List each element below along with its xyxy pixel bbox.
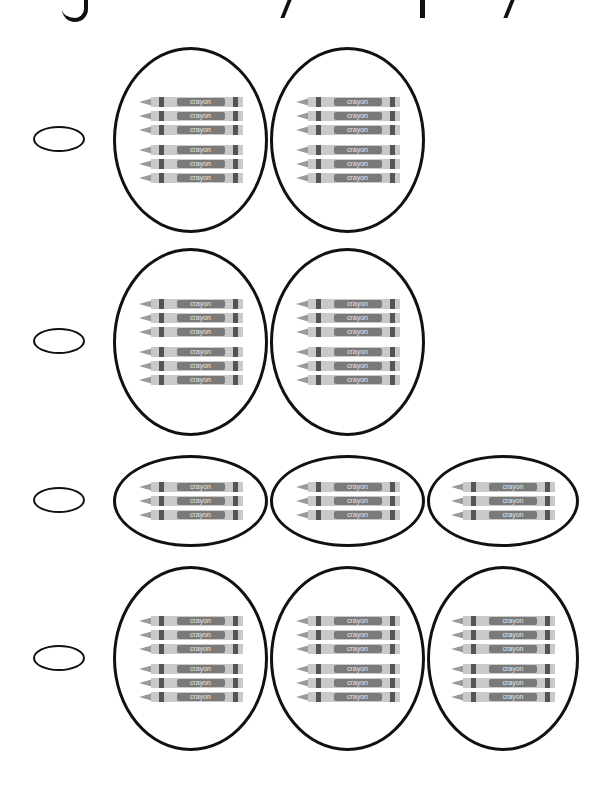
- crayon-group: crayoncrayoncrayon: [270, 455, 425, 547]
- crayon-label: crayon: [177, 314, 225, 322]
- crayon-icon: crayon: [139, 173, 243, 183]
- crayon-icon: crayon: [451, 692, 555, 702]
- crayon-icon: crayon: [451, 644, 555, 654]
- crayon-icon: crayon: [296, 125, 400, 135]
- crayon-group: crayoncrayoncrayoncrayoncrayoncrayon: [270, 47, 425, 233]
- answer-bubble-3[interactable]: [33, 487, 85, 513]
- crayon-label: crayon: [177, 112, 225, 120]
- crayon-label: crayon: [334, 362, 382, 370]
- crayon-icon: crayon: [139, 347, 243, 357]
- crayon-icon: crayon: [139, 644, 243, 654]
- crayon-icon: crayon: [296, 644, 400, 654]
- crayon-label: crayon: [334, 146, 382, 154]
- crayon-label: crayon: [177, 98, 225, 106]
- crayon-icon: crayon: [451, 664, 555, 674]
- crayon-label: crayon: [177, 497, 225, 505]
- crayon-label: crayon: [334, 328, 382, 336]
- crayon-group: crayoncrayoncrayon: [427, 455, 579, 547]
- crayon-label: crayon: [334, 511, 382, 519]
- crayon-label: crayon: [177, 300, 225, 308]
- crayon-icon: crayon: [296, 327, 400, 337]
- crayon-icon: crayon: [296, 510, 400, 520]
- crayon-icon: crayon: [139, 145, 243, 155]
- title-descender-y2: [503, 0, 514, 18]
- answer-bubble-1[interactable]: [33, 126, 85, 152]
- title-descender-g: [62, 0, 88, 22]
- crayon-label: crayon: [489, 665, 537, 673]
- crayon-label: crayon: [177, 617, 225, 625]
- answer-option-4: crayoncrayoncrayoncrayoncrayoncrayoncray…: [0, 566, 610, 751]
- answer-option-3: crayoncrayoncrayoncrayoncrayoncrayoncray…: [0, 455, 610, 547]
- crayon-label: crayon: [334, 497, 382, 505]
- crayon-label: crayon: [334, 348, 382, 356]
- crayon-icon: crayon: [139, 375, 243, 385]
- crayon-icon: crayon: [296, 361, 400, 371]
- crayon-label: crayon: [489, 483, 537, 491]
- crayon-label: crayon: [489, 511, 537, 519]
- crayon-icon: crayon: [296, 313, 400, 323]
- crayon-icon: crayon: [139, 664, 243, 674]
- crayon-icon: crayon: [296, 375, 400, 385]
- crayon-group: crayoncrayoncrayon: [113, 455, 268, 547]
- answer-bubble-4[interactable]: [33, 645, 85, 671]
- crayon-label: crayon: [489, 631, 537, 639]
- crayon-group: crayoncrayoncrayoncrayoncrayoncrayon: [427, 566, 579, 751]
- crayon-label: crayon: [177, 631, 225, 639]
- crayon-label: crayon: [334, 174, 382, 182]
- crayon-icon: crayon: [451, 678, 555, 688]
- crayon-icon: crayon: [139, 630, 243, 640]
- crayon-label: crayon: [334, 617, 382, 625]
- crayon-label: crayon: [177, 348, 225, 356]
- crayon-label: crayon: [334, 631, 382, 639]
- crayon-label: crayon: [177, 362, 225, 370]
- crayon-icon: crayon: [139, 692, 243, 702]
- crayon-icon: crayon: [296, 97, 400, 107]
- crayon-label: crayon: [334, 126, 382, 134]
- crayon-label: crayon: [334, 376, 382, 384]
- crayon-label: crayon: [177, 146, 225, 154]
- title-descender-y: [280, 0, 291, 18]
- crayon-icon: crayon: [296, 159, 400, 169]
- crayon-icon: crayon: [139, 482, 243, 492]
- title-descender-p: [420, 0, 425, 18]
- crayon-label: crayon: [489, 497, 537, 505]
- crayon-label: crayon: [177, 483, 225, 491]
- crayon-label: crayon: [177, 328, 225, 336]
- crayon-icon: crayon: [139, 97, 243, 107]
- crayon-icon: crayon: [451, 616, 555, 626]
- crayon-icon: crayon: [296, 145, 400, 155]
- crayon-label: crayon: [177, 376, 225, 384]
- crayon-group: crayoncrayoncrayoncrayoncrayoncrayon: [113, 47, 268, 233]
- crayon-label: crayon: [489, 693, 537, 701]
- crayon-icon: crayon: [296, 692, 400, 702]
- crayon-icon: crayon: [139, 510, 243, 520]
- crayon-icon: crayon: [296, 664, 400, 674]
- crayon-icon: crayon: [139, 616, 243, 626]
- crayon-icon: crayon: [296, 482, 400, 492]
- crayon-label: crayon: [334, 645, 382, 653]
- crayon-label: crayon: [489, 645, 537, 653]
- crayon-icon: crayon: [451, 630, 555, 640]
- crayon-icon: crayon: [451, 510, 555, 520]
- crayon-icon: crayon: [296, 630, 400, 640]
- crayon-icon: crayon: [296, 173, 400, 183]
- crayon-icon: crayon: [139, 361, 243, 371]
- answer-option-1: crayoncrayoncrayoncrayoncrayoncrayoncray…: [0, 47, 610, 233]
- crayon-group: crayoncrayoncrayoncrayoncrayoncrayon: [113, 566, 268, 751]
- crayon-label: crayon: [489, 617, 537, 625]
- crayon-label: crayon: [177, 679, 225, 687]
- crayon-icon: crayon: [139, 313, 243, 323]
- crayon-label: crayon: [177, 174, 225, 182]
- answer-bubble-2[interactable]: [33, 328, 85, 354]
- crayon-label: crayon: [334, 112, 382, 120]
- crayon-icon: crayon: [139, 111, 243, 121]
- crayon-label: crayon: [334, 665, 382, 673]
- crayon-icon: crayon: [139, 327, 243, 337]
- crayon-label: crayon: [334, 693, 382, 701]
- crayon-label: crayon: [334, 98, 382, 106]
- crayon-group: crayoncrayoncrayoncrayoncrayoncrayon: [270, 248, 425, 436]
- crayon-label: crayon: [177, 665, 225, 673]
- crayon-icon: crayon: [139, 299, 243, 309]
- crayon-group: crayoncrayoncrayoncrayoncrayoncrayon: [113, 248, 268, 436]
- crayon-label: crayon: [334, 160, 382, 168]
